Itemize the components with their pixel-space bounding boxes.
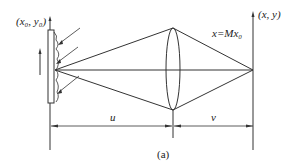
figure-caption: (a) [157, 148, 169, 160]
rough-surface [54, 32, 59, 102]
magnification-label: x=Mx₀ [212, 27, 242, 39]
image-coords-label: (x, y) [258, 8, 281, 20]
object-coords-label: (x₀, y₀) [16, 15, 46, 27]
image-distance-label: v [211, 111, 216, 123]
object-plate [48, 30, 54, 103]
lens [166, 28, 180, 110]
object-distance-label: u [110, 111, 116, 123]
